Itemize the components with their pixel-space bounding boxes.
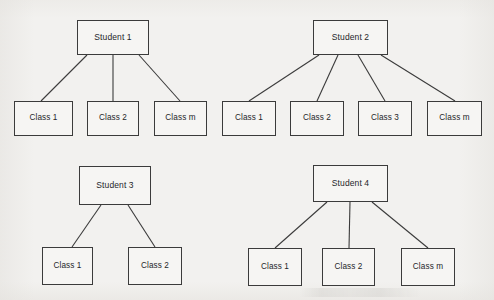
- student-node-1: Student 1: [77, 20, 149, 55]
- class-node-3-1: Class 1: [42, 247, 93, 285]
- class-node-3-2: Class 2: [128, 247, 182, 285]
- class-node-label: Class 1: [235, 114, 263, 122]
- connector-line: [128, 205, 155, 247]
- student-node-4: Student 4: [313, 165, 388, 202]
- connector-line: [317, 55, 338, 101]
- connector-line: [275, 202, 327, 248]
- student-node-label: Student 4: [332, 179, 369, 188]
- connector-line: [381, 55, 455, 101]
- diagram-canvas: Student 1Class 1Class 2Class mStudent 2C…: [0, 0, 494, 300]
- connector-line: [72, 205, 101, 247]
- connector-line: [372, 202, 428, 248]
- class-node-2-1: Class 1: [222, 101, 276, 136]
- class-node-label: Class m: [439, 114, 469, 122]
- class-node-2-3: Class 3: [358, 101, 412, 136]
- class-node-4-2: Class 2: [322, 248, 375, 286]
- student-node-label: Student 1: [94, 33, 131, 42]
- student-node-label: Student 3: [96, 181, 133, 190]
- class-node-2-2: Class 2: [290, 101, 344, 136]
- connector-line: [41, 55, 87, 101]
- class-node-label: Class 2: [303, 114, 331, 122]
- class-node-label: Class 2: [99, 114, 127, 122]
- class-node-4-3: Class m: [401, 248, 455, 286]
- class-node-label: Class m: [165, 114, 195, 122]
- connector-line: [358, 55, 385, 101]
- student-node-3: Student 3: [79, 166, 151, 205]
- class-node-2-4: Class m: [427, 101, 482, 136]
- class-node-1-2: Class 2: [87, 101, 139, 136]
- class-node-label: Class 3: [371, 114, 399, 122]
- connector-line: [249, 55, 319, 101]
- class-node-label: Class 1: [53, 262, 81, 270]
- class-node-1-3: Class m: [154, 101, 207, 136]
- connector-line: [349, 202, 350, 248]
- class-node-label: Class m: [413, 263, 443, 271]
- connector-line: [139, 55, 180, 101]
- class-node-label: Class 2: [334, 263, 362, 271]
- class-node-label: Class 1: [261, 263, 289, 271]
- class-node-4-1: Class 1: [248, 248, 302, 286]
- class-node-1-1: Class 1: [14, 101, 73, 136]
- student-node-2: Student 2: [313, 20, 388, 55]
- student-node-label: Student 2: [332, 33, 369, 42]
- class-node-label: Class 1: [29, 114, 57, 122]
- class-node-label: Class 2: [141, 262, 169, 270]
